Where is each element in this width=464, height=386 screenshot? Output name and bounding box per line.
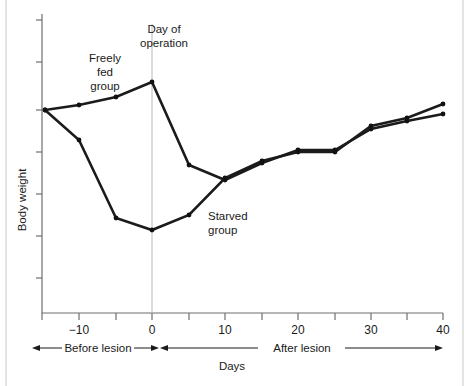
before-lesion-left-arrow-icon: [32, 345, 40, 351]
after-lesion-right-arrow-icon: [435, 345, 443, 351]
y-axis-ticks: [36, 20, 42, 278]
span-before-lesion-label: Before lesion: [64, 342, 131, 354]
annotation-starved-line-1: Starved: [208, 210, 248, 222]
series-markers-freely-fed: [43, 80, 446, 183]
annotation-day-line-2: operation: [140, 37, 188, 49]
x-tick-label-40: 40: [436, 323, 450, 337]
annotation-day-line-1: Day of: [147, 23, 181, 35]
before-lesion-right-arrow-icon: [151, 345, 159, 351]
annotation-freely-line-2: fed: [97, 66, 113, 78]
annotation-freely-line-3: group: [90, 80, 119, 92]
span-before-lesion: Before lesion: [32, 342, 159, 354]
annotation-starved-group: Starved group: [208, 210, 248, 236]
x-tick-label-0: 0: [149, 323, 156, 337]
x-tick-label-30: 30: [364, 323, 378, 337]
span-after-lesion: After lesion: [160, 342, 443, 354]
chart-figure: −10 0 10 20 30 40: [0, 0, 464, 386]
annotation-starved-line-2: group: [208, 224, 237, 236]
annotation-day-of-operation: Day of operation: [140, 23, 188, 49]
span-after-lesion-label: After lesion: [273, 342, 331, 354]
annotation-freely-fed-group: Freely fed group: [89, 52, 121, 92]
x-tick-label-minus10: −10: [69, 323, 90, 337]
chart-svg: −10 0 10 20 30 40: [0, 0, 464, 386]
annotation-freely-line-1: Freely: [89, 52, 121, 64]
y-axis-label: Body weight: [16, 168, 28, 231]
x-axis-label: Days: [219, 360, 245, 372]
x-tick-label-10: 10: [218, 323, 232, 337]
x-tick-label-20: 20: [291, 323, 305, 337]
series-line-freely-fed: [45, 82, 443, 180]
x-axis-ticks: [42, 313, 443, 320]
